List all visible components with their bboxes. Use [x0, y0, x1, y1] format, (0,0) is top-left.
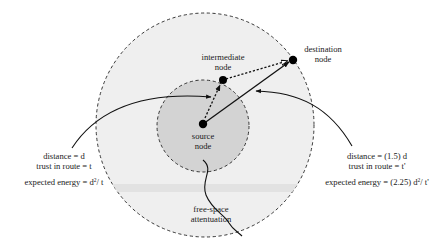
- intermediate-node-label: intermediate node: [185, 52, 261, 72]
- left-energy: expected energy = d2/ t: [8, 177, 120, 187]
- right-annotation: distance = (1.5) d trust in route = t' e…: [310, 151, 444, 187]
- background-band: [96, 184, 316, 192]
- destination-node-label: destination node: [292, 44, 354, 64]
- right-trust: trust in route = t': [310, 161, 444, 171]
- left-distance: distance = d: [8, 151, 120, 161]
- attenuation-label: free-space attentuation: [178, 204, 244, 224]
- diagram-canvas: intermediate node destination node sourc…: [0, 0, 447, 250]
- right-energy: expected energy = (2.25) d2/ t': [310, 177, 444, 187]
- source-node-dot: [199, 120, 207, 128]
- intermediate-node-dot: [219, 76, 227, 84]
- left-trust: trust in route = t: [8, 161, 120, 171]
- source-node-label: source node: [178, 131, 228, 151]
- right-distance: distance = (1.5) d: [310, 151, 444, 161]
- left-annotation: distance = d trust in route = t expected…: [8, 151, 120, 187]
